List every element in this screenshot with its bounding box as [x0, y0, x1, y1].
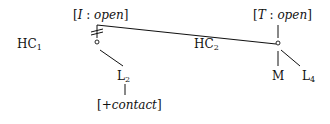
hc2-label: HC2	[194, 38, 219, 52]
hc1-label: HC1	[17, 38, 42, 52]
l4-branch	[281, 50, 300, 66]
l4-label: L4	[302, 70, 315, 84]
contact-label: [+contact]	[97, 99, 162, 111]
hc2-line	[97, 25, 276, 44]
l2-label: L2	[117, 70, 130, 84]
m-label: M	[272, 70, 284, 82]
right-node-circle	[276, 41, 280, 45]
left-node-circle	[95, 40, 99, 44]
left-feature-label: [I : open]	[73, 9, 129, 21]
l2-branch	[100, 50, 123, 66]
right-feature-label: [T : open]	[253, 9, 312, 21]
